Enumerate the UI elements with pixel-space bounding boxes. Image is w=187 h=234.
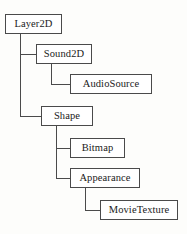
node-movietexture[interactable]: MovieTexture — [100, 200, 178, 220]
node-label-appearance: Appearance — [79, 172, 130, 183]
node-layer2d[interactable]: Layer2D — [5, 14, 62, 34]
connector-shape-to-bitmap — [56, 126, 70, 148]
node-label-shape: Shape — [54, 110, 80, 121]
node-label-bitmap: Bitmap — [82, 142, 114, 153]
connector-appearance-to-movietexture — [85, 188, 100, 210]
node-label-audiosource: AudioSource — [83, 78, 140, 89]
node-shape[interactable]: Shape — [41, 106, 93, 126]
node-bitmap[interactable]: Bitmap — [70, 138, 125, 158]
node-audiosource[interactable]: AudioSource — [70, 74, 152, 94]
class-hierarchy-diagram: Layer2D Sound2D AudioSource Shape Bitmap… — [0, 0, 187, 234]
node-label-movietexture: MovieTexture — [109, 204, 170, 215]
connector-shape-to-appearance — [56, 126, 70, 178]
connector-layer — [0, 0, 187, 234]
node-label-layer2d: Layer2D — [14, 18, 52, 29]
node-appearance[interactable]: Appearance — [70, 168, 140, 188]
node-label-sound2d: Sound2D — [44, 48, 84, 59]
node-sound2d[interactable]: Sound2D — [36, 44, 92, 64]
connector-layer2d-to-sound2d — [20, 34, 36, 54]
connector-sound2d-to-audiosource — [51, 64, 70, 84]
